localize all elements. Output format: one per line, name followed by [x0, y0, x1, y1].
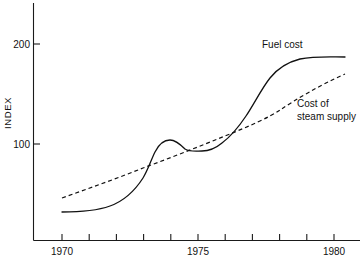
line-chart-canvas: 200 100 INDEX 1970 1975 1980 Fuel cost C… — [0, 0, 360, 266]
series-label-steam-line2: steam supply — [297, 111, 356, 122]
series-label-steam-line1: Cost of — [297, 98, 329, 109]
y-axis-title: INDEX — [2, 97, 13, 129]
chart-figure: 200 100 INDEX 1970 1975 1980 Fuel cost C… — [0, 0, 360, 266]
y-tick-label-200: 200 — [13, 39, 30, 50]
x-tick-label-1975: 1975 — [187, 246, 210, 257]
x-tick-label-1970: 1970 — [51, 246, 74, 257]
series-label-fuel-cost: Fuel cost — [262, 39, 303, 50]
chart-background — [0, 0, 360, 266]
y-tick-label-100: 100 — [13, 139, 30, 150]
x-tick-label-1980: 1980 — [323, 246, 346, 257]
